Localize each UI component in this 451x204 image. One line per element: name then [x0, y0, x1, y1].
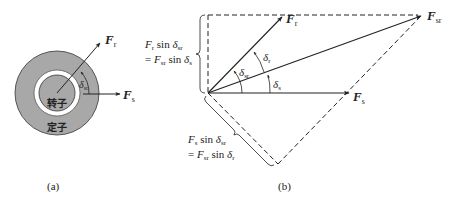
caption-b: (b) — [278, 180, 291, 193]
panel-b: Fr Fsr Fs δsr δr δs Fr sin δsr = Fsr sin… — [144, 8, 442, 193]
fsr-label: Fsr — [426, 8, 442, 25]
delta-sr-label-b: δsr — [239, 66, 250, 80]
lower-brace-eq-line1: Fs sin δsr — [187, 133, 227, 147]
delta-r-label: δr — [263, 51, 271, 65]
upper-brace — [196, 15, 205, 93]
fs-label-b: Fs — [352, 89, 365, 106]
delta-s-label: δs — [273, 78, 281, 92]
fr-label-a: Fr — [104, 32, 117, 49]
fr-label-b: Fr — [285, 11, 298, 28]
dashed-diag-right — [278, 17, 420, 164]
stator-label: 定子 — [47, 121, 67, 133]
rotor-label: 转子 — [47, 97, 67, 109]
upper-brace-eq-line1: Fr sin δsr — [144, 38, 183, 52]
panel-a: Fr Fs δsr 转子 定子 (a) — [15, 32, 135, 193]
delta-s-arc — [268, 75, 270, 93]
fr-vector-b — [208, 17, 282, 93]
diagram-canvas: Fr Fs δsr 转子 定子 (a) Fr Fsr Fs δsr δr δs … — [0, 0, 451, 204]
caption-a: (a) — [47, 180, 60, 193]
lower-brace-eq-line2: = Fsr sin δr — [188, 148, 235, 162]
fs-label-a: Fs — [122, 87, 135, 104]
upper-brace-eq-line2: = Fsr sin δs — [145, 53, 192, 67]
